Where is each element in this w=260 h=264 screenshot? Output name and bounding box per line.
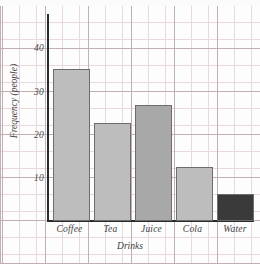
- bar-juice: [135, 105, 172, 221]
- bar-tea: [94, 123, 131, 221]
- y-tick-label-40: 40: [16, 43, 44, 53]
- bar-water: [217, 194, 254, 221]
- x-axis-title: Drinks: [0, 241, 260, 251]
- bar-series: [49, 20, 254, 221]
- x-tick-label-water: Water: [213, 224, 257, 234]
- x-tick-label-juice: Juice: [131, 224, 172, 234]
- x-tick-label-coffee: Coffee: [49, 224, 90, 234]
- bar-chart-figure: 40 30 20 10 Coffee Tea Juice Cola Water …: [0, 0, 260, 264]
- y-tick-label-30: 30: [16, 87, 44, 97]
- y-axis-title: Frequency (people): [9, 41, 19, 161]
- bar-cola: [176, 167, 213, 221]
- y-tick-label-20: 20: [16, 130, 44, 140]
- x-tick-label-tea: Tea: [90, 224, 131, 234]
- y-tick-label-10: 10: [16, 173, 44, 183]
- x-tick-label-cola: Cola: [172, 224, 213, 234]
- bar-coffee: [53, 69, 90, 221]
